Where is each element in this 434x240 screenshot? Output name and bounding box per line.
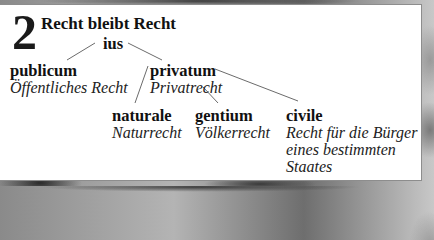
node-civile: civile Recht für die Bürger eines bestim… [286,107,417,175]
node-privatum: privatum Privatrecht [150,62,222,96]
node-publicum-german: Öffentliches Recht [10,79,128,96]
section-title: Recht bleibt Recht [41,14,176,34]
node-gentium-latin: gentium [195,107,270,124]
node-privatum-latin: privatum [150,62,222,79]
node-naturale-latin: naturale [112,107,182,124]
node-gentium-german: Völkerrecht [195,124,270,141]
node-ius: ius [103,35,123,52]
section-number: 2 [12,7,37,57]
node-privatum-german: Privatrecht [150,79,222,96]
node-naturale-german: Naturrecht [112,124,182,141]
node-publicum: publicum Öffentliches Recht [10,62,128,96]
node-civile-german-line-3: Staates [286,158,417,175]
node-gentium: gentium Völkerrecht [195,107,270,141]
node-naturale: naturale Naturrecht [112,107,182,141]
node-publicum-latin: publicum [10,62,128,79]
node-civile-german-line-1: Recht für die Bürger [286,124,417,141]
node-ius-latin: ius [103,35,123,52]
node-civile-latin: civile [286,107,417,124]
node-civile-german-line-2: eines bestimmten [286,141,417,158]
